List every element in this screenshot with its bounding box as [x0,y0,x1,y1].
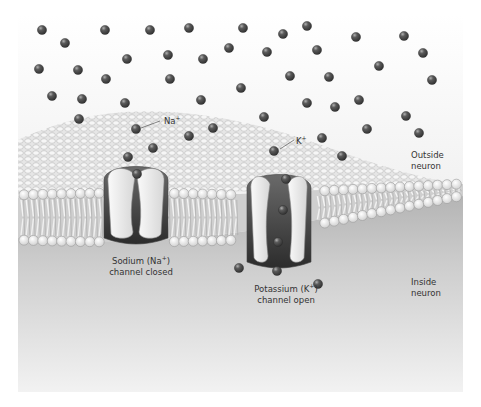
ion-icon [123,152,132,161]
ion-icon [163,50,172,59]
ion-icon [234,263,243,272]
ion-icon [281,174,290,183]
ion-icon [224,43,233,52]
ion-icon [362,124,371,133]
ion-icon [337,151,346,160]
ion-icon [236,83,245,92]
sodium-channel-label: Sodium (Na+) channel closed [106,256,176,278]
ion-icon [100,25,109,34]
ion-icon [47,91,56,100]
ion-icon [60,38,69,47]
ion-icon [122,54,131,63]
ion-icon [427,75,436,84]
ion-icon [132,169,141,178]
ion-icon [165,74,174,83]
ion-icon [145,25,154,34]
ion-icon [302,98,311,107]
ion-icon [351,32,360,41]
ion-icon [414,128,423,137]
ion-icon [374,61,383,70]
ion-icon [77,94,86,103]
k-ion-label: K+ [296,136,307,146]
ion-icon [73,65,82,74]
ion-icon [285,71,294,80]
ion-icon [74,114,83,123]
ion-icon [259,112,268,121]
ion-icon [312,45,321,54]
ion-icon [34,64,43,73]
ion-icon [399,31,408,40]
ion-icon [184,23,193,32]
ion-icon [354,95,363,104]
ion-icon [278,29,287,38]
membrane-illustration [18,14,463,392]
ion-icon [418,48,427,57]
ion-icon [184,131,193,140]
ion-icon [330,102,339,111]
ion-icon [324,72,333,81]
ion-icon [37,25,46,34]
ion-icon [269,146,278,155]
ion-icon [238,23,247,32]
ion-icon [198,54,207,63]
ion-icon [208,123,217,132]
inside-neuron-label: Inside neuron [411,277,441,299]
ion-icon [101,74,110,83]
ion-icon [120,98,129,107]
ion-icon [148,143,157,152]
ion-icon [272,266,281,275]
ion-icon [401,111,410,120]
neuron-membrane-diagram: Na+ K+ Sodium (Na+) channel closed Potas… [18,14,463,392]
outside-neuron-label: Outside neuron [411,150,444,172]
ion-icon [302,21,311,30]
ion-icon [196,95,205,104]
ion-icon [131,124,140,133]
ion-icon [317,133,326,142]
ion-icon [262,47,271,56]
potassium-channel-label: Potassium (K+) channel open [246,284,326,306]
ion-icon [278,205,287,214]
ion-icon [273,237,282,246]
na-ion-label: Na+ [164,116,181,126]
